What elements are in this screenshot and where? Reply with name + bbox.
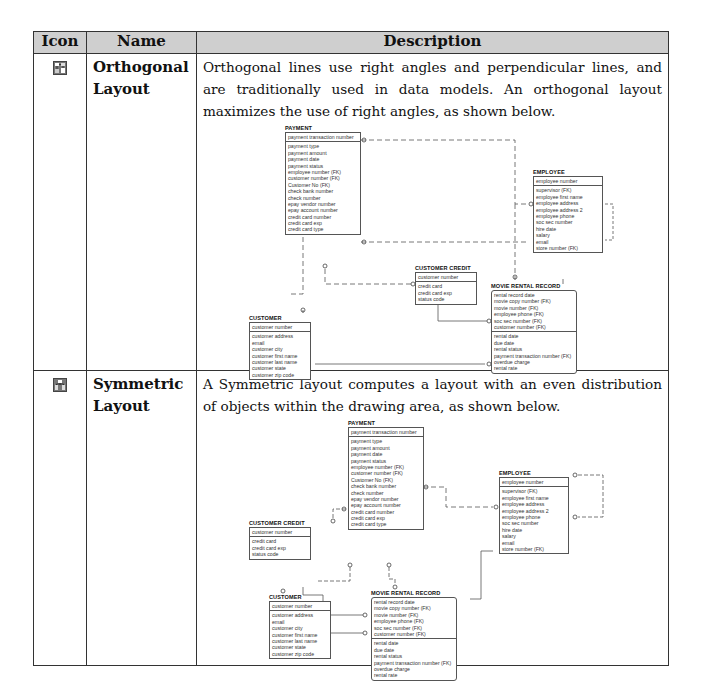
table-header-row: Icon Name Description <box>34 32 669 54</box>
entity-title: CUSTOMER <box>269 593 331 601</box>
entity-title: CUSTOMER CREDIT <box>415 264 477 272</box>
icon-cell <box>34 371 87 666</box>
entity-title: CUSTOMER <box>249 314 311 322</box>
table-row-symmetric: Symmetric Layout A Symmetric layout comp… <box>34 371 669 666</box>
orthogonal-layout-icon <box>53 61 67 75</box>
entity-attr: rental rate <box>494 365 574 371</box>
entity-attr: customer zip code <box>272 651 328 657</box>
entity-customer-credit[interactable]: CUSTOMER CREDIT customer number credit c… <box>415 264 477 305</box>
orthogonal-er-diagram: PAYMENT payment transaction number payme… <box>203 124 662 368</box>
entity-payment[interactable]: PAYMENT payment transaction number payme… <box>348 419 424 530</box>
layout-name-line1: Symmetric <box>93 373 190 395</box>
entity-key: payment transaction number <box>351 429 421 435</box>
entity-payment[interactable]: PAYMENT payment transaction number payme… <box>285 124 361 235</box>
entity-attr: rental rate <box>374 672 454 678</box>
entity-attr: customer zip code <box>252 372 308 378</box>
name-cell: Orthogonal Layout <box>86 54 196 371</box>
entity-attr: status code <box>418 296 474 302</box>
entity-customer[interactable]: CUSTOMER customer number customer addres… <box>269 593 331 659</box>
icon-cell <box>34 54 87 371</box>
entity-title: MOVIE RENTAL RECORD <box>371 589 457 597</box>
entity-attr: payment transaction number (FK) <box>494 353 574 359</box>
header-name: Name <box>86 32 196 54</box>
entity-key: payment transaction number <box>288 134 358 140</box>
entity-key: customer number <box>272 603 328 609</box>
symmetric-er-diagram: PAYMENT payment transaction number payme… <box>203 419 662 663</box>
entity-key: customer number <box>418 274 474 280</box>
entity-attr: credit card type <box>351 521 421 527</box>
entity-customer-credit[interactable]: CUSTOMER CREDIT customer number credit c… <box>249 519 311 560</box>
entity-title: EMPLOYEE <box>499 469 569 477</box>
header-icon: Icon <box>34 32 87 54</box>
entity-title: EMPLOYEE <box>533 168 603 176</box>
entity-employee[interactable]: EMPLOYEE employee number supervisor (FK)… <box>533 168 603 253</box>
entity-attr: credit card type <box>288 226 358 232</box>
table-row-orthogonal: Orthogonal Layout Orthogonal lines use r… <box>34 54 669 371</box>
symmetric-layout-icon <box>53 378 67 392</box>
entity-title: MOVIE RENTAL RECORD <box>491 282 577 290</box>
entity-movie-rental-record[interactable]: MOVIE RENTAL RECORD rental record date m… <box>491 282 577 374</box>
description-cell: Orthogonal lines use right angles and pe… <box>196 54 668 371</box>
entity-key: employee number <box>502 479 566 485</box>
entity-customer[interactable]: CUSTOMER customer number customer addres… <box>249 314 311 380</box>
entity-attr: payment transaction number (FK) <box>374 660 454 666</box>
name-cell: Symmetric Layout <box>86 371 196 666</box>
layout-name-line2: Layout <box>93 395 190 417</box>
layout-description: Orthogonal lines use right angles and pe… <box>203 56 662 122</box>
entity-attr: store number (FK) <box>502 546 566 552</box>
description-cell: A Symmetric layout computes a layout wit… <box>196 371 668 666</box>
entity-key: customer number (FK) <box>374 631 454 637</box>
entity-movie-rental-record[interactable]: MOVIE RENTAL RECORD rental record date m… <box>371 589 457 681</box>
layout-name-line1: Orthogonal <box>93 56 190 78</box>
entity-attr: status code <box>252 551 308 557</box>
entity-key: customer number <box>252 324 308 330</box>
layout-options-table: Icon Name Description Orthogonal Layout … <box>33 31 669 666</box>
entity-title: PAYMENT <box>285 124 361 132</box>
entity-key: employee number <box>536 178 600 184</box>
entity-key: customer number (FK) <box>494 324 574 330</box>
entity-employee[interactable]: EMPLOYEE employee number supervisor (FK)… <box>499 469 569 554</box>
entity-attr: store number (FK) <box>536 245 600 251</box>
entity-title: CUSTOMER CREDIT <box>249 519 311 527</box>
layout-name-line2: Layout <box>93 78 190 100</box>
entity-key: customer number <box>252 529 308 535</box>
header-description: Description <box>196 32 668 54</box>
entity-title: PAYMENT <box>348 419 424 427</box>
